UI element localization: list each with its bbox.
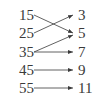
mapping-arrows (0, 0, 97, 96)
arrow-35-to-5 (34, 35, 73, 52)
